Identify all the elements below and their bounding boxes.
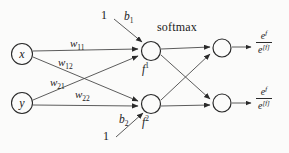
weight-label-w12: w12 xyxy=(58,57,73,71)
weight-label-w21: w21 xyxy=(50,77,65,91)
weight-label-w11: w11 xyxy=(70,38,85,52)
output-fraction-1-den-sup: [f] xyxy=(262,43,269,51)
output-fraction-2-num-sup: f xyxy=(265,85,267,93)
output-fraction-2-denominator: e[f] xyxy=(256,99,272,111)
edge-y-to-f2 xyxy=(33,105,138,106)
hidden-node-f2-label: f2 xyxy=(142,115,149,128)
weight-label-w12-sub: 12 xyxy=(65,62,73,71)
output-fraction-2-numerator: ef xyxy=(256,86,272,98)
bias-label-b2: b2 xyxy=(119,114,129,128)
weight-label-w11-sub: 11 xyxy=(77,43,84,52)
hidden-node-f1-circle xyxy=(142,42,161,61)
output-fraction-1: ef e[f] xyxy=(256,30,272,56)
edge-x-to-f1 xyxy=(33,49,138,51)
bias-label-b1-sub: 1 xyxy=(130,16,134,25)
softmax-node-2-circle xyxy=(213,94,231,112)
input-node-y-label: y xyxy=(14,97,30,109)
bias-label-b2-sub: 2 xyxy=(125,119,129,128)
weight-label-w22: w22 xyxy=(75,89,90,103)
output-fraction-1-num-sup: f xyxy=(265,29,267,37)
weight-label-w21-sub: 21 xyxy=(57,82,65,91)
weight-label-w22-sub: 22 xyxy=(82,94,90,103)
softmax-label: softmax xyxy=(157,21,197,33)
hidden-node-f2-circle xyxy=(142,95,161,114)
diagram-connections xyxy=(0,0,289,153)
edge-f2-to-softmax2 xyxy=(161,105,210,106)
bias-constant-bottom: 1 xyxy=(103,130,109,142)
edge-f1-to-softmax1 xyxy=(161,47,210,49)
edge-f2-to-softmax1 xyxy=(161,54,210,100)
bias-label-b1: b1 xyxy=(124,11,134,25)
output-fraction-1-denominator: e[f] xyxy=(256,43,272,55)
output-fraction-1-numerator: ef xyxy=(256,30,272,42)
output-fraction-2: ef e[f] xyxy=(256,86,272,112)
input-node-x-label: x xyxy=(14,48,30,60)
output-fraction-2-den-sup: [f] xyxy=(262,99,269,107)
softmax-node-1-circle xyxy=(213,39,231,57)
neural-network-diagram: x y 1 1 b1 b2 w11 w12 w21 w22 softmax f1… xyxy=(0,0,289,153)
bias-constant-top: 1 xyxy=(101,9,107,21)
hidden-node-f1-sup: 1 xyxy=(145,61,149,70)
hidden-node-f2-sup: 2 xyxy=(145,114,149,123)
hidden-node-f1-label: f1 xyxy=(142,62,149,75)
